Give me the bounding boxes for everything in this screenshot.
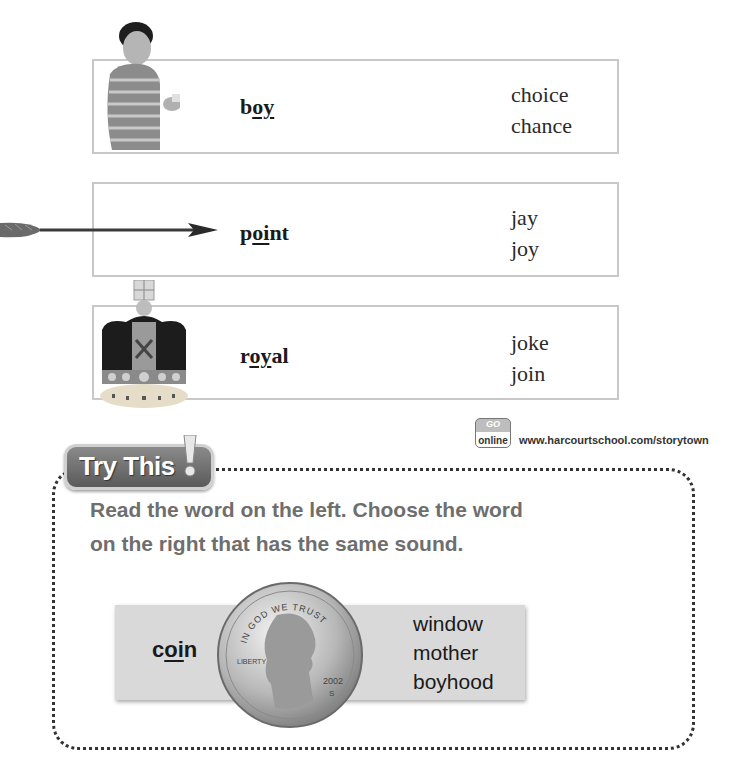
go-online-link[interactable]: GO online www.harcourtschool.com/storyto… bbox=[475, 418, 709, 448]
choice-option[interactable]: chance bbox=[511, 110, 572, 141]
choice-option[interactable]: joke bbox=[511, 327, 549, 358]
arrow-photo-icon bbox=[0, 215, 220, 245]
choice-option[interactable]: jay bbox=[511, 202, 539, 233]
choice-option[interactable]: choice bbox=[511, 79, 572, 110]
exclamation-icon bbox=[181, 435, 199, 477]
svg-text:2002: 2002 bbox=[323, 676, 343, 686]
choice-list: choice chance bbox=[511, 79, 572, 141]
try-this-badge: Try This bbox=[64, 444, 214, 490]
try-this-title: Try This bbox=[79, 451, 175, 482]
choice-option[interactable]: mother bbox=[413, 638, 494, 667]
choice-option[interactable]: joy bbox=[511, 233, 539, 264]
underlined-vowel-team: oy bbox=[249, 343, 271, 368]
go-online-badge-icon: GO online bbox=[475, 418, 511, 448]
svg-text:LIBERTY: LIBERTY bbox=[237, 658, 266, 665]
penny-coin-icon: IN GOD WE TRUST LIBERTY 2002 S bbox=[215, 580, 365, 730]
svg-text:S: S bbox=[329, 689, 334, 698]
crown-photo-icon bbox=[96, 280, 192, 412]
choice-option[interactable]: boyhood bbox=[413, 667, 494, 696]
choice-option[interactable]: join bbox=[511, 358, 549, 389]
try-this-instructions: Read the word on the left. Choose the wo… bbox=[90, 493, 530, 561]
choice-option[interactable]: window bbox=[413, 609, 494, 638]
boy-photo-icon bbox=[100, 14, 180, 152]
choice-list: jay joy bbox=[511, 202, 539, 264]
website-url[interactable]: www.harcourtschool.com/storytown bbox=[519, 434, 709, 446]
underlined-vowel-team: oi bbox=[164, 637, 184, 662]
key-word-point: point bbox=[240, 220, 289, 246]
choice-list: window mother boyhood bbox=[413, 609, 494, 696]
choice-list: joke join bbox=[511, 327, 549, 389]
key-word-coin: coin bbox=[152, 637, 197, 663]
key-word-royal: royal bbox=[240, 343, 289, 369]
underlined-vowel-team: oi bbox=[252, 220, 269, 245]
underlined-vowel-team: oy bbox=[252, 94, 274, 119]
key-word-boy: boy bbox=[240, 94, 274, 120]
